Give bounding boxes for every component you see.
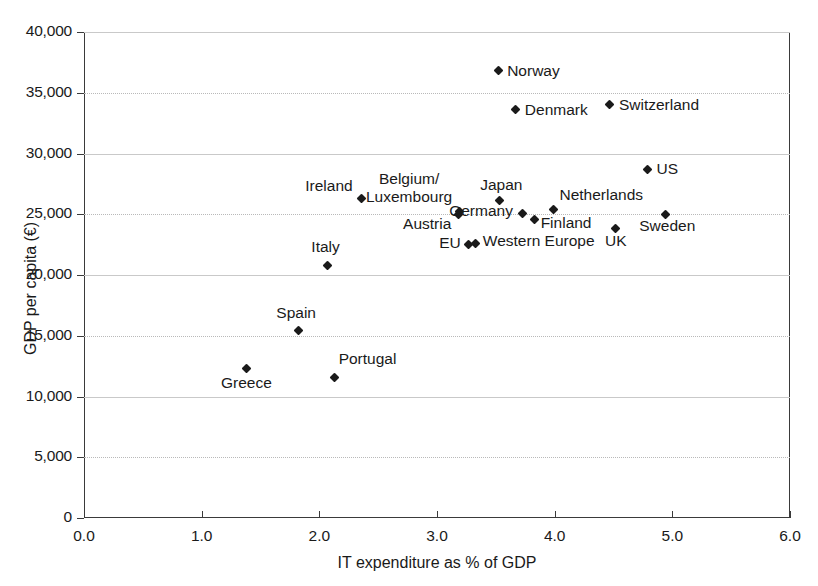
- data-point-label: UK: [605, 233, 627, 249]
- data-point-label: EU: [439, 235, 461, 251]
- x-tick-label: 2.0: [279, 527, 359, 545]
- data-point-label: Sweden: [639, 218, 695, 234]
- x-tick-mark: [319, 511, 320, 518]
- y-tick-mark: [77, 93, 84, 94]
- x-axis-title: IT expenditure as % of GDP: [84, 554, 790, 572]
- y-tick-label: 25,000: [0, 204, 72, 222]
- x-tick-label: 4.0: [515, 527, 595, 545]
- gridline-y: [84, 457, 790, 458]
- data-point-label: Germany: [449, 203, 513, 219]
- x-tick-label: 1.0: [162, 527, 242, 545]
- data-point-label: Japan: [480, 177, 522, 193]
- data-point-label: Italy: [311, 239, 339, 255]
- data-point-label: Finland: [541, 215, 592, 231]
- y-tick-mark: [77, 214, 84, 215]
- gridline-y: [84, 154, 790, 155]
- data-point-label: Austria: [403, 216, 451, 232]
- x-tick-mark: [790, 511, 791, 518]
- y-axis-title: GDP per capita (€): [22, 222, 40, 355]
- y-tick-mark: [77, 457, 84, 458]
- y-tick-label: 5,000: [0, 447, 72, 465]
- x-tick-mark: [672, 511, 673, 518]
- x-tick-label: 5.0: [632, 527, 712, 545]
- gridline-y: [84, 275, 790, 276]
- gridline-y: [84, 93, 790, 94]
- data-point-label: Switzerland: [619, 97, 699, 113]
- gridline-y: [84, 32, 790, 33]
- data-point-label: Spain: [276, 305, 316, 321]
- y-tick-mark: [77, 154, 84, 155]
- x-tick-mark: [84, 511, 85, 518]
- x-tick-label: 6.0: [750, 527, 818, 545]
- gridline-y: [84, 397, 790, 398]
- x-tick-label: 3.0: [397, 527, 477, 545]
- data-point-label: Portugal: [339, 351, 397, 367]
- data-point-label: Norway: [507, 63, 560, 79]
- y-tick-label: 35,000: [0, 83, 72, 101]
- data-point-label: Ireland: [305, 178, 352, 194]
- y-tick-mark: [77, 32, 84, 33]
- data-point-label: Greece: [221, 375, 272, 391]
- x-tick-mark: [437, 511, 438, 518]
- scatter-chart: 05,00010,00015,00020,00025,00030,00035,0…: [0, 0, 818, 586]
- x-tick-mark: [555, 511, 556, 518]
- y-tick-mark: [77, 518, 84, 519]
- y-tick-label: 0: [0, 508, 72, 526]
- y-tick-label: 40,000: [0, 22, 72, 40]
- data-point-label: US: [657, 161, 679, 177]
- y-tick-mark: [77, 275, 84, 276]
- x-tick-mark: [202, 511, 203, 518]
- data-point-label: Belgium/Luxembourg: [366, 170, 452, 205]
- x-tick-label: 0.0: [44, 527, 124, 545]
- y-tick-mark: [77, 336, 84, 337]
- y-tick-label: 30,000: [0, 144, 72, 162]
- data-point-label: Western Europe: [483, 233, 595, 249]
- data-point-label: Netherlands: [559, 187, 643, 203]
- y-tick-label: 10,000: [0, 387, 72, 405]
- y-tick-mark: [77, 397, 84, 398]
- gridline-y: [84, 336, 790, 337]
- data-point-label: Denmark: [525, 102, 588, 118]
